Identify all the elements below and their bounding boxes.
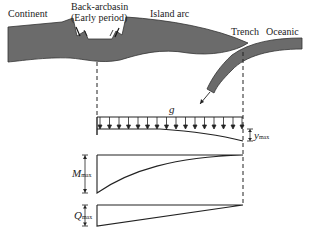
beam-deflection-curve bbox=[97, 129, 243, 141]
label-q-max: Qmax bbox=[74, 210, 92, 221]
load-arrows-icon bbox=[98, 117, 244, 129]
extension-arrow-right-icon bbox=[110, 30, 113, 36]
label-back-arc-basin: Back-arcbasin bbox=[71, 2, 128, 12]
label-y-max: ymax bbox=[254, 130, 269, 141]
label-continent: Continent bbox=[8, 9, 47, 19]
label-trench: Trench bbox=[231, 27, 259, 37]
label-load-g: g bbox=[169, 104, 175, 115]
overriding-plate bbox=[8, 17, 248, 62]
label-island-arc: Island arc bbox=[150, 9, 189, 19]
label-m-max: Mmax bbox=[72, 168, 92, 179]
diagram-graphics bbox=[0, 0, 309, 235]
label-early-period: (Early period) bbox=[71, 13, 127, 23]
subduction-beam-diagram: Continent Back-arcbasin (Early period) I… bbox=[0, 0, 309, 235]
moment-diagram bbox=[97, 155, 243, 193]
label-oceanic: Oceanic bbox=[266, 27, 299, 37]
shear-diagram bbox=[97, 205, 243, 226]
